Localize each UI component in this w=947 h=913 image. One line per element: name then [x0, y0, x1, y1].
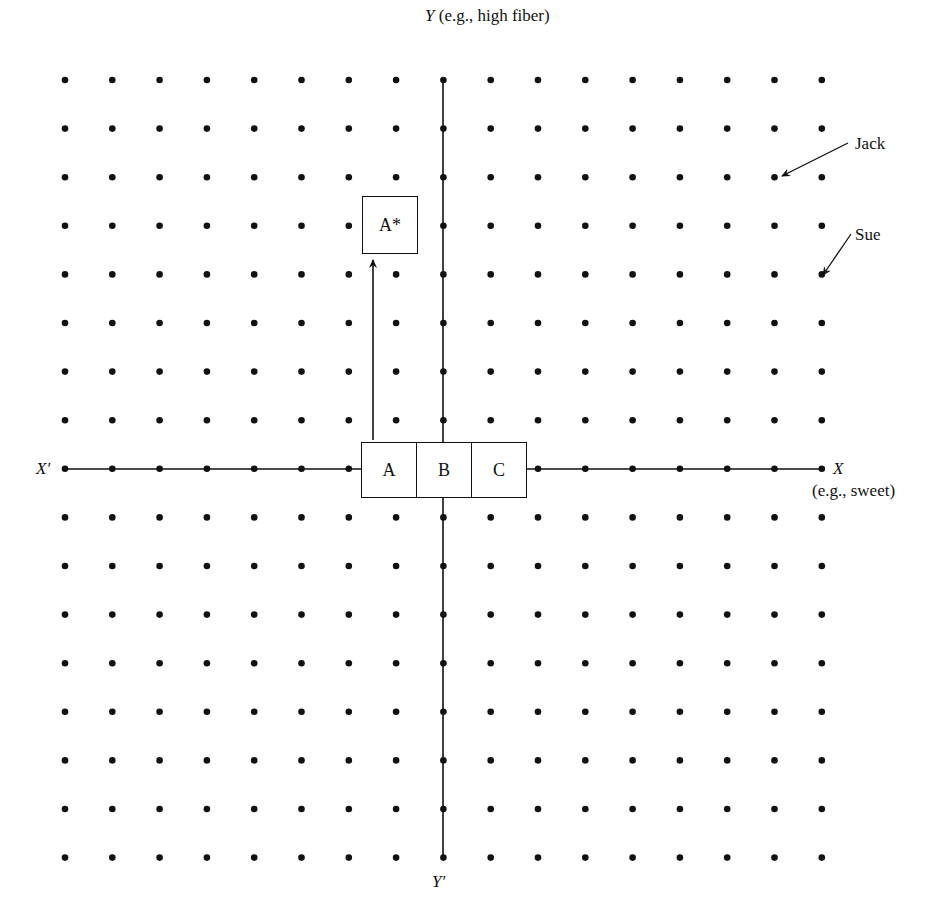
grid-dot	[582, 514, 589, 521]
grid-dot	[771, 563, 778, 570]
grid-dot	[109, 611, 116, 618]
grid-dot	[109, 563, 116, 570]
grid-dot	[156, 271, 163, 278]
grid-dot	[582, 709, 589, 716]
grid-dot	[346, 611, 353, 618]
grid-dot	[535, 320, 542, 327]
grid-dot	[346, 320, 353, 327]
grid-dot	[109, 223, 116, 230]
grid-dot	[582, 854, 589, 861]
grid-dot	[582, 806, 589, 813]
grid-dot	[251, 563, 258, 570]
grid-dot	[819, 174, 826, 181]
grid-dot	[819, 514, 826, 521]
grid-dot	[582, 757, 589, 764]
grid-dot	[346, 368, 353, 375]
sue-pointer-arrow	[823, 234, 851, 275]
grid-dot	[771, 271, 778, 278]
grid-dot	[204, 320, 211, 327]
grid-dot	[298, 806, 305, 813]
grid-dot	[487, 854, 494, 861]
grid-dot	[393, 125, 400, 132]
grid-dot	[487, 368, 494, 375]
grid-dot	[677, 368, 684, 375]
grid-dot	[487, 320, 494, 327]
grid-dot	[677, 223, 684, 230]
grid-dot	[298, 223, 305, 230]
grid-dot	[156, 320, 163, 327]
grid-dot	[724, 854, 731, 861]
grid-dot	[251, 806, 258, 813]
grid-dot	[582, 660, 589, 667]
grid-dot	[677, 709, 684, 716]
grid-dot	[535, 417, 542, 424]
grid-dot	[771, 757, 778, 764]
grid-dot	[771, 368, 778, 375]
grid-dot	[771, 660, 778, 667]
grid-dot	[629, 174, 636, 181]
grid-dot	[298, 563, 305, 570]
grid-dot	[724, 514, 731, 521]
grid-dot	[204, 417, 211, 424]
grid-dot	[62, 77, 69, 84]
grid-dot	[771, 611, 778, 618]
grid-dot	[535, 223, 542, 230]
product-c-box: C	[471, 442, 527, 498]
grid-dot	[62, 368, 69, 375]
grid-dot	[251, 77, 258, 84]
grid-dot	[393, 368, 400, 375]
grid-dot	[724, 125, 731, 132]
grid-dot	[346, 174, 353, 181]
grid-dot	[109, 368, 116, 375]
grid-dot	[251, 271, 258, 278]
grid-dot	[487, 417, 494, 424]
grid-dot	[109, 709, 116, 716]
grid-dot	[819, 660, 826, 667]
grid-dot	[204, 368, 211, 375]
grid-dot	[487, 223, 494, 230]
grid-dot	[346, 417, 353, 424]
grid-dot	[204, 271, 211, 278]
grid-dot	[771, 514, 778, 521]
grid-dot	[393, 757, 400, 764]
grid-dot	[629, 709, 636, 716]
grid-dot	[582, 77, 589, 84]
grid-dot	[156, 563, 163, 570]
grid-dot	[724, 806, 731, 813]
grid-dot	[346, 854, 353, 861]
product-a-label: A	[383, 460, 396, 481]
grid-dot	[62, 563, 69, 570]
grid-dot	[298, 125, 305, 132]
grid-dot	[819, 77, 826, 84]
grid-dot	[724, 368, 731, 375]
grid-dot	[204, 223, 211, 230]
grid-dot	[109, 660, 116, 667]
grid-dot	[204, 757, 211, 764]
grid-dot	[109, 320, 116, 327]
grid-dot	[393, 806, 400, 813]
grid-dot	[156, 709, 163, 716]
grid-dot	[393, 611, 400, 618]
grid-dot	[204, 660, 211, 667]
grid-dot	[771, 125, 778, 132]
grid-dot	[393, 709, 400, 716]
grid-dot	[582, 320, 589, 327]
grid-dot	[677, 854, 684, 861]
grid-dot	[156, 417, 163, 424]
grid-dot	[156, 757, 163, 764]
grid-dot	[629, 563, 636, 570]
grid-dot	[156, 854, 163, 861]
grid-dot	[677, 271, 684, 278]
grid-dot	[109, 174, 116, 181]
product-a-star-box: A*	[362, 196, 418, 254]
grid-dot	[771, 174, 778, 181]
product-b-label: B	[438, 460, 450, 481]
grid-dot	[109, 854, 116, 861]
grid-dot	[724, 174, 731, 181]
grid-dot	[819, 125, 826, 132]
grid-dot	[677, 77, 684, 84]
grid-dot	[298, 320, 305, 327]
grid-dot	[156, 806, 163, 813]
grid-dot	[346, 77, 353, 84]
grid-dot	[677, 417, 684, 424]
